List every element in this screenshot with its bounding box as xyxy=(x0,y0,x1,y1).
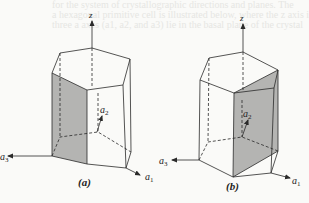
a3-label-a: a3 xyxy=(0,151,9,164)
caption-b: (b) xyxy=(226,180,239,193)
a2-label-a: a2 xyxy=(100,104,109,117)
z-label-a: z xyxy=(88,10,93,20)
a1-label-b: a1 xyxy=(292,175,301,188)
a1-axis-b xyxy=(271,173,290,178)
panel-a xyxy=(8,21,140,175)
caption-a: (a) xyxy=(78,176,91,189)
panel-b xyxy=(172,24,290,178)
a1-label-a: a1 xyxy=(145,171,154,184)
a3-label-b: a3 xyxy=(159,155,168,168)
z-label-b: z xyxy=(239,13,244,23)
shaded-plane-a xyxy=(52,73,87,164)
hexagonal-cells-figure: z a2 a3 a1 (a) z a2 a3 a1 (b) xyxy=(0,0,309,203)
a1-axis-a xyxy=(126,168,140,175)
